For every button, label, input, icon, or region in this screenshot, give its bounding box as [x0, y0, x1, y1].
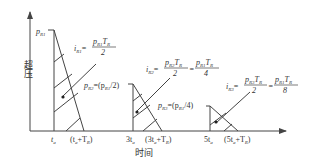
pulse-2-dot [135, 110, 138, 113]
svg-text:8: 8 [283, 86, 287, 95]
pulse-3 [206, 92, 250, 131]
pulse-2-peak-label: pR2=(pR1/2) [83, 81, 120, 91]
svg-text:iR2=: iR2= [146, 65, 159, 75]
pulse-2 [128, 78, 170, 131]
svg-text:iR3=: iR3= [226, 82, 239, 92]
pulse-1-dot [61, 95, 64, 98]
pulse-3-impulse-formula: iR3= pR3TR 2 = pR1TR 8 [226, 75, 298, 95]
svg-text:3ta: 3ta [126, 135, 135, 145]
svg-text:(ta+TR): (ta+TR) [70, 135, 93, 145]
svg-text:2: 2 [101, 48, 105, 57]
svg-text:pR1TR: pR1TR [195, 58, 213, 68]
svg-text:2: 2 [173, 69, 177, 78]
svg-text:iR1=: iR1= [74, 44, 87, 54]
pulse-2-impulse-formula: iR2= pR2TR 2 = pR1TR 4 [146, 58, 219, 78]
pulse-1-peak-label: pR1 [35, 27, 46, 37]
pulse-1 [48, 30, 96, 131]
svg-text:2: 2 [252, 86, 256, 95]
svg-text:pR2TR: pR2TR [164, 58, 182, 68]
svg-text:(5ta+TR): (5ta+TR) [224, 135, 251, 145]
svg-text:5ta: 5ta [204, 135, 213, 145]
svg-text:pR1TR: pR1TR [92, 37, 110, 47]
pulse-1-impulse-formula: iR1= pR1TR 2 [74, 37, 116, 57]
svg-text:=: = [189, 65, 194, 74]
svg-text:(3ta+TR): (3ta+TR) [145, 135, 172, 145]
pulse-3-dot [214, 120, 217, 123]
x-axis-label: 时间 [135, 147, 153, 158]
reflected-pressure-diagram: 超压 pR1 pR2=(pR1/2) pR3=(pR1/4) iR1= pR1T… [0, 0, 312, 167]
svg-text:=: = [268, 82, 273, 91]
x-tick-labels: ta (ta+TR) 3ta (3ta+TR) 5ta (5ta+TR) [51, 135, 251, 145]
svg-text:pR3TR: pR3TR [244, 75, 262, 85]
pulse-3-peak-label: pR3=(pR1/4) [157, 101, 194, 111]
svg-text:4: 4 [204, 69, 208, 78]
svg-text:ta: ta [51, 135, 56, 145]
svg-text:pR1TR: pR1TR [274, 75, 292, 85]
